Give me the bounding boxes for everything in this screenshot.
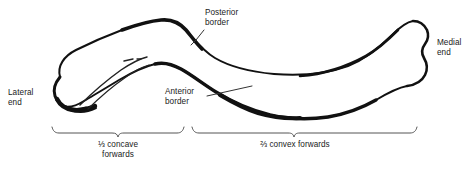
label-bracket-left-caption: ⅓ concave forwards	[62, 140, 174, 160]
label-lateral-end: Lateral end	[8, 88, 33, 108]
posterior-border-thick	[122, 20, 202, 49]
label-anterior-border: Anterior border	[165, 87, 194, 107]
posterior-border-thick-medial	[300, 30, 398, 76]
label-posterior-border: Posterior border	[205, 8, 238, 28]
bone-outline	[54, 20, 428, 119]
medial-end-cap	[407, 21, 428, 86]
bracket-right	[192, 127, 417, 137]
label-bracket-right-caption: ⅔ convex forwards	[215, 140, 375, 150]
measurement-brackets	[52, 127, 417, 137]
label-medial-end: Medial end	[437, 38, 461, 58]
clavicle-diagram: Posterior border Medial end Lateral end …	[0, 0, 474, 169]
bracket-left	[52, 127, 184, 137]
anterior-border-thick-accent	[220, 95, 300, 118]
tubercle-dash-mark	[124, 59, 133, 61]
leader-lines	[191, 30, 252, 96]
